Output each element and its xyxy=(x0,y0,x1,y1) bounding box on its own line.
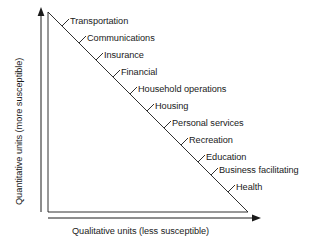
x-axis-arrow xyxy=(48,215,261,222)
category-label: Health xyxy=(236,182,262,192)
category-label: Financial xyxy=(121,67,157,77)
hypotenuse-tick xyxy=(96,53,103,60)
hypotenuse-tick xyxy=(228,185,235,192)
hypotenuse-tick xyxy=(164,121,171,128)
hypotenuse-tick xyxy=(113,70,120,77)
category-label: Transportation xyxy=(70,16,128,26)
category-label: Household operations xyxy=(138,84,226,94)
category-label: Recreation xyxy=(189,135,233,145)
category-label: Personal services xyxy=(172,118,244,128)
x-axis-label: Qualitative units (less susceptible) xyxy=(72,226,209,236)
susceptibility-continuum-diagram: TransportationCommunicationsInsuranceFin… xyxy=(0,0,325,250)
hypotenuse-tick xyxy=(181,138,188,145)
category-label: Education xyxy=(206,152,246,162)
hypotenuse-tick xyxy=(198,155,205,162)
hypotenuse-tick xyxy=(130,87,137,94)
hypotenuse-tick xyxy=(62,19,69,26)
hypotenuse-tick-group xyxy=(62,19,235,192)
hypotenuse-tick xyxy=(79,36,86,43)
category-label: Communications xyxy=(87,33,155,43)
diagram-canvas xyxy=(0,0,325,250)
category-label: Insurance xyxy=(104,50,144,60)
y-axis-label: Quantitative units (more susceptible) xyxy=(14,58,24,205)
category-label: Business facilitating xyxy=(219,165,299,175)
hypotenuse-tick xyxy=(147,104,154,111)
hypotenuse-tick xyxy=(211,168,218,175)
category-label: Housing xyxy=(155,101,188,111)
y-axis-arrow xyxy=(38,7,45,212)
